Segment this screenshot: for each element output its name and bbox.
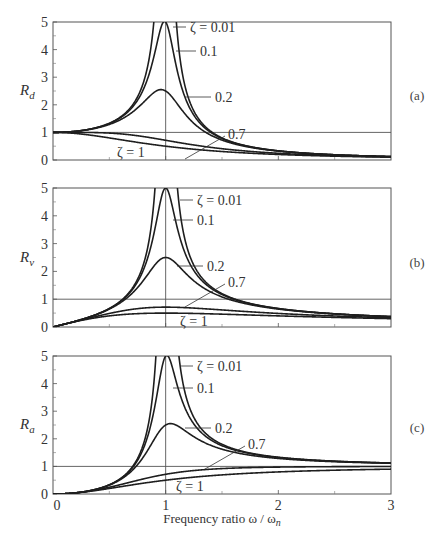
x-tick-label: 2	[275, 498, 282, 513]
y-axis-label: Ra	[19, 416, 35, 435]
y-tick-label: 4	[41, 43, 48, 58]
curve-zeta-1	[53, 132, 391, 157]
label-zeta-0-01: ζ = 0.01	[197, 359, 242, 374]
y-tick-label: 5	[41, 15, 48, 30]
y-tick-label: 0	[41, 487, 48, 502]
chart-panel-c: 0123450123Ra(c)ζ = 0.010.10.20.7ζ = 1	[19, 328, 424, 513]
x-tick-label: 3	[388, 498, 395, 513]
y-axis-label: Rd	[19, 82, 35, 101]
y-axis-label-sub: d	[29, 89, 35, 101]
leader-line	[185, 136, 225, 159]
y-axis-label-sub: v	[29, 256, 34, 268]
y-axis-label-sub: a	[29, 423, 35, 435]
y-tick-label: 1	[41, 459, 48, 474]
label-zeta-0-2: 0.2	[215, 90, 233, 105]
y-axis-label-main: R	[19, 249, 29, 265]
label-zeta-1: ζ = 1	[176, 479, 204, 494]
label-zeta-0-1: 0.1	[197, 213, 215, 228]
y-tick-label: 2	[41, 264, 48, 279]
y-tick-label: 2	[41, 432, 48, 447]
curve-zeta-1	[53, 469, 391, 494]
label-zeta-1: ζ = 1	[117, 145, 145, 160]
curves	[53, 160, 391, 327]
panel-tag: (c)	[410, 420, 424, 435]
label-zeta-0-2: 0.2	[207, 259, 225, 274]
curve-zeta-0_01	[53, 160, 391, 327]
x-axis-label: Frequency ratio ω / ωn	[163, 511, 280, 528]
curve-zeta-0_1	[53, 188, 391, 327]
curves	[53, 328, 391, 494]
label-zeta-0-1: 0.1	[200, 44, 218, 59]
x-axis-label-main: Frequency ratio ω / ω	[163, 511, 276, 526]
label-zeta-0-7: 0.7	[248, 437, 266, 452]
label-zeta-0-01: ζ = 0.01	[197, 193, 242, 208]
y-tick-label: 5	[41, 349, 48, 364]
y-tick-label: 1	[41, 292, 48, 307]
label-zeta-0-01: ζ = 0.01	[190, 20, 235, 35]
y-axis-label-main: R	[19, 416, 29, 432]
label-zeta-1: ζ = 1	[180, 314, 208, 329]
y-tick-label: 4	[41, 377, 48, 392]
y-tick-label: 3	[41, 70, 48, 85]
y-tick-label: 3	[41, 404, 48, 419]
x-tick-label: 0	[54, 498, 61, 513]
panel-tag: (a)	[410, 88, 424, 103]
panel-tag: (b)	[409, 255, 424, 270]
plot-frame	[53, 188, 391, 327]
response-factor-figure: 012345Rd(a)ζ = 0.010.10.20.7ζ = 1012345R…	[0, 0, 447, 537]
chart-panel-b: 012345Rv(b)ζ = 0.010.10.20.7ζ = 1	[19, 160, 425, 335]
label-zeta-0-1: 0.1	[197, 381, 215, 396]
label-zeta-0-2: 0.2	[215, 421, 233, 436]
x-axis-label-sub: n	[276, 517, 281, 528]
y-tick-label: 2	[41, 98, 48, 113]
y-tick-label: 0	[41, 320, 48, 335]
y-axis-label-main: R	[19, 82, 29, 98]
y-axis-label: Rv	[19, 249, 34, 268]
chart-panel-a: 012345Rd(a)ζ = 0.010.10.20.7ζ = 1	[19, 0, 424, 168]
label-zeta-0-7: 0.7	[228, 127, 246, 142]
y-tick-label: 0	[41, 153, 48, 168]
curve-zeta-0_7	[53, 132, 391, 157]
y-tick-label: 4	[41, 209, 48, 224]
y-tick-label: 5	[41, 181, 48, 196]
label-zeta-0-7: 0.7	[228, 275, 246, 290]
y-tick-label: 3	[41, 237, 48, 252]
y-tick-label: 1	[41, 125, 48, 140]
